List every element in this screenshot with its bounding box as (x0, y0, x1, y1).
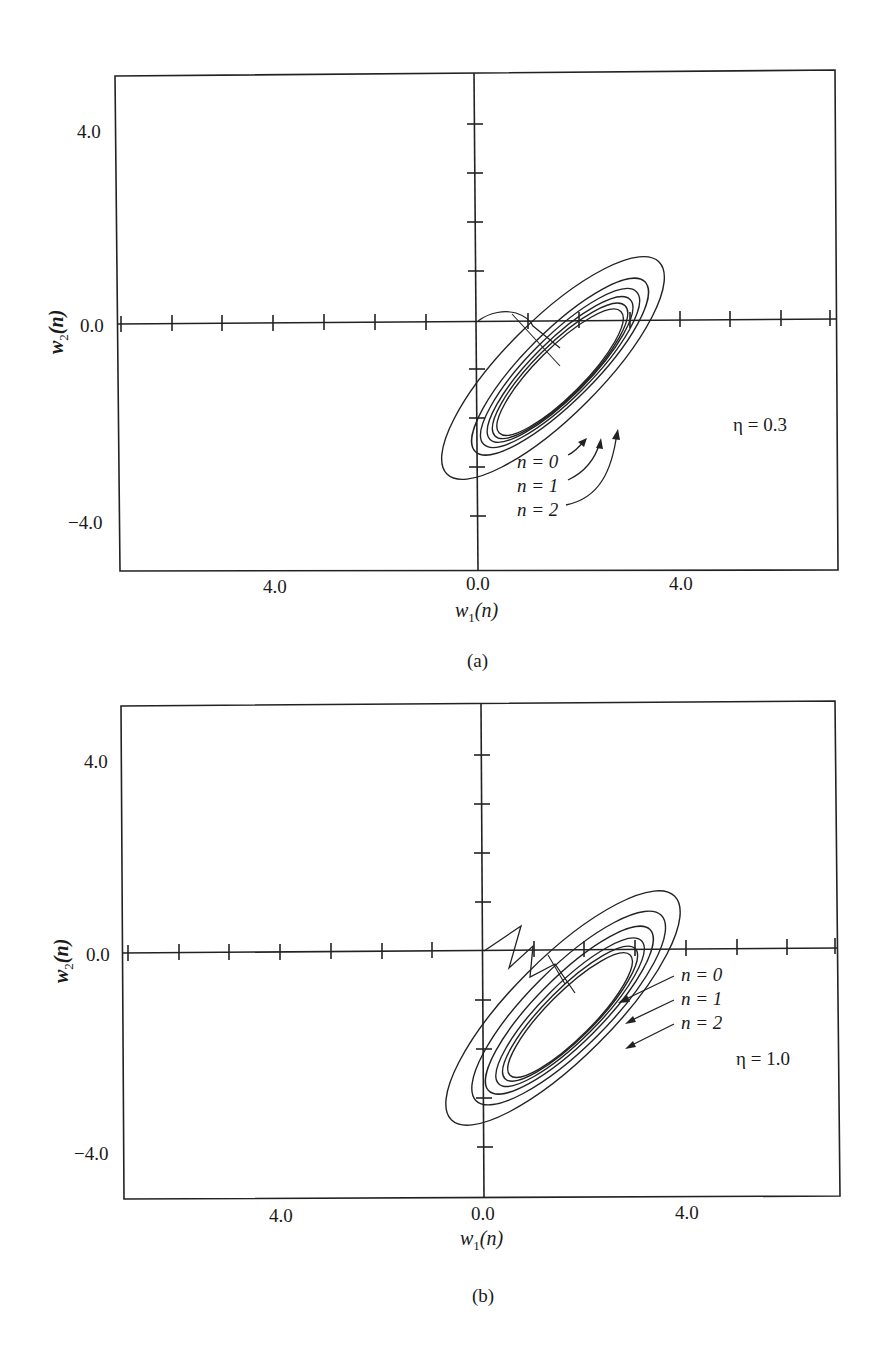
y-axis-label-main: w (45, 341, 67, 354)
x-axis-label-main: w (460, 1227, 473, 1249)
x-axis-label-sub: 1 (468, 610, 475, 625)
y-axis-label-arg: (n) (50, 939, 72, 963)
y-tick-label-4: 4.0 (84, 752, 108, 771)
annotation-n2: n = 2 (681, 1013, 722, 1032)
y-axis-label-arg: (n) (45, 310, 67, 334)
annotation-n0: n = 0 (681, 965, 722, 984)
y-axis-label-main: w (50, 970, 72, 983)
x-axis-label-sub: 1 (473, 1238, 480, 1253)
eta-label: η = 0.3 (733, 415, 787, 434)
y-tick-label-0: 0.0 (86, 945, 110, 964)
x-tick-label-neg4: 4.0 (263, 577, 287, 596)
annotation-n2: n = 2 (517, 500, 558, 519)
x-axis-label: w1(n) (455, 600, 498, 620)
x-axis-label: w1(n) (460, 1228, 503, 1248)
y-tick-label-0: 0.0 (80, 316, 104, 335)
plot-area-b (0, 628, 885, 1362)
y-tick-label-4: 4.0 (77, 122, 101, 141)
y-axis-label-sub: 2 (61, 963, 76, 970)
annotation-n1: n = 1 (681, 989, 722, 1008)
annotation-n1: n = 1 (517, 476, 558, 495)
figure-a: 4.0 0.0 −4.0 4.0 0.0 4.0 w1(n) w2(n) n =… (0, 0, 885, 680)
x-axis-label-main: w (455, 599, 468, 621)
y-tick-label-neg4: −4.0 (68, 513, 102, 532)
x-axis-label-arg: (n) (475, 599, 498, 621)
x-axis-label-arg: (n) (480, 1227, 503, 1249)
x-tick-label-4: 4.0 (669, 574, 693, 593)
figure-b: 4.0 0.0 −4.0 4.0 0.0 4.0 w1(n) w2(n) n =… (0, 628, 885, 1362)
annotation-n0: n = 0 (517, 452, 558, 471)
y-axis-label-sub: 2 (56, 334, 71, 341)
x-tick-label-0: 0.0 (466, 574, 490, 593)
y-axis-label: w2(n) (45, 310, 68, 354)
plot-area-a (0, 0, 885, 680)
eta-label: η = 1.0 (736, 1049, 790, 1068)
x-tick-label-0: 0.0 (471, 1204, 495, 1223)
figure-caption: (b) (472, 1285, 494, 1307)
y-tick-label-neg4: −4.0 (74, 1144, 108, 1163)
x-tick-label-4: 4.0 (675, 1203, 699, 1222)
y-axis-label: w2(n) (50, 939, 73, 983)
x-tick-label-neg4: 4.0 (269, 1206, 293, 1225)
